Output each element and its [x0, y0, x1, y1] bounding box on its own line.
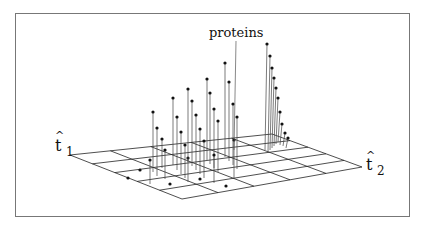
axis-label-t2: ^ t 2 [366, 149, 385, 178]
data-point [216, 119, 219, 122]
grid-line [92, 141, 290, 164]
data-point [223, 61, 226, 64]
grid-line [70, 134, 272, 155]
svg-text:2: 2 [377, 164, 385, 178]
grid-line [115, 147, 308, 172]
data-point [227, 80, 230, 83]
data-point [272, 76, 275, 79]
data-point [160, 137, 163, 140]
data-point [280, 122, 283, 125]
data-point [171, 96, 174, 99]
data-point [212, 153, 215, 156]
data-point [179, 130, 182, 133]
data-point [235, 115, 238, 118]
spike-line [268, 56, 270, 152]
spike-series [126, 42, 289, 187]
svg-text:1: 1 [66, 145, 74, 159]
data-point [183, 143, 186, 146]
data-point [198, 177, 201, 180]
spike-line [278, 112, 280, 142]
data-point [265, 42, 268, 45]
data-point [148, 158, 151, 161]
data-point [224, 184, 227, 187]
spike-line [274, 88, 276, 146]
proteins-pointer [234, 41, 236, 150]
spike-line [272, 78, 274, 148]
data-point [198, 127, 201, 130]
data-point [194, 113, 197, 116]
data-point [186, 87, 189, 90]
data-point [163, 148, 166, 151]
data-point [155, 126, 158, 129]
data-point [126, 176, 129, 179]
data-point [151, 110, 154, 113]
data-point [283, 131, 286, 134]
data-point [208, 91, 211, 94]
spike-plot-figure: proteins ^ t 1 ^ t 2 [0, 0, 424, 229]
data-point [286, 136, 289, 139]
data-point [270, 66, 273, 69]
data-point [231, 102, 234, 105]
data-point [274, 86, 277, 89]
data-point [278, 110, 281, 113]
data-point [276, 96, 279, 99]
spike-line [270, 68, 272, 150]
data-point [175, 115, 178, 118]
data-point [190, 99, 193, 102]
spike-line [265, 44, 267, 150]
data-point [168, 182, 171, 185]
data-point [202, 139, 205, 142]
figure-frame [16, 14, 410, 217]
axis-label-t1: ^ t 1 [55, 129, 74, 159]
data-point [212, 107, 215, 110]
data-point [268, 54, 271, 57]
svg-text:t: t [366, 155, 373, 174]
base-grid [70, 134, 362, 199]
data-point [138, 168, 141, 171]
data-point [205, 77, 208, 80]
svg-text:t: t [55, 136, 62, 155]
spike-line [276, 98, 278, 144]
proteins-label: proteins [209, 25, 263, 40]
spike-line [283, 133, 285, 146]
